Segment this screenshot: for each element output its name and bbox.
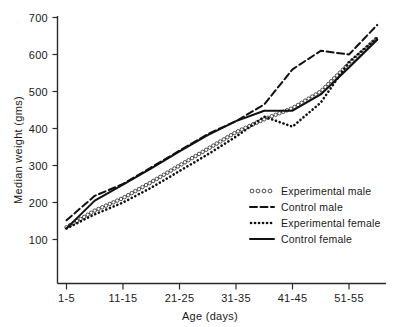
data-point	[278, 112, 282, 116]
data-point	[169, 169, 173, 173]
y-axis-title: Median weight (gms)	[12, 96, 24, 204]
y-tick-label-400: 400	[29, 123, 48, 135]
data-point	[240, 128, 244, 132]
data-point	[108, 202, 112, 206]
data-point	[229, 133, 233, 137]
data-point	[262, 118, 266, 122]
data-point	[115, 199, 119, 203]
data-point	[190, 156, 194, 160]
y-tick-marks	[53, 18, 58, 240]
y-tick-label-500: 500	[29, 86, 48, 98]
data-point	[89, 211, 93, 215]
x-tick-label-11-15: 11-15	[109, 292, 138, 304]
data-point	[97, 207, 101, 211]
data-point	[197, 152, 201, 156]
data-point	[130, 191, 134, 195]
x-tick-label-1-5: 1-5	[58, 292, 75, 304]
data-point	[270, 115, 274, 119]
data-point	[101, 206, 105, 210]
chart-legend: Experimental male Control male Experimen…	[250, 185, 381, 245]
line-chart: 700 600 500 400 300 200 100 Median weigh…	[0, 0, 393, 327]
data-point	[123, 195, 127, 199]
data-point	[159, 175, 163, 179]
legend-label-experimental-female: Experimental female	[281, 217, 381, 229]
data-point	[236, 130, 240, 134]
data-point	[82, 215, 86, 219]
y-tick-label-700: 700	[29, 12, 48, 24]
series-layer	[65, 25, 378, 229]
x-axis-title: Age (days)	[182, 310, 238, 322]
data-point	[119, 197, 123, 201]
legend-marker-experimental-male	[250, 189, 272, 193]
data-point	[204, 148, 208, 152]
series-experimental-female	[67, 38, 378, 229]
y-tick-label-300: 300	[29, 160, 48, 172]
data-point	[176, 165, 180, 169]
x-tick-label-21-25: 21-25	[165, 292, 195, 304]
data-point	[148, 181, 152, 185]
legend-label-control-male: Control male	[281, 201, 343, 213]
data-point	[93, 209, 97, 213]
data-point	[86, 213, 90, 217]
x-tick-marks	[67, 284, 350, 290]
data-point	[212, 144, 216, 148]
data-point	[208, 146, 212, 150]
data-point	[222, 138, 226, 142]
data-point	[173, 167, 177, 171]
data-point	[126, 193, 130, 197]
data-point	[187, 158, 191, 162]
legend-label-control-female: Control female	[281, 233, 352, 245]
y-tick-label-100: 100	[29, 234, 48, 246]
data-point	[233, 131, 237, 135]
x-tick-label-41-45: 41-45	[278, 292, 308, 304]
legend-label-experimental-male: Experimental male	[281, 185, 371, 197]
data-point	[180, 163, 184, 167]
data-point	[151, 179, 155, 183]
data-point	[155, 177, 159, 181]
data-point	[226, 136, 230, 140]
data-point	[219, 140, 223, 144]
data-point	[112, 201, 116, 205]
data-point	[201, 150, 205, 154]
data-point	[166, 171, 170, 175]
data-point	[144, 183, 148, 187]
data-point	[194, 154, 198, 158]
x-tick-label-51-55: 51-55	[334, 292, 364, 304]
y-tick-label-200: 200	[29, 197, 48, 209]
data-point	[162, 173, 166, 177]
chart-figure: 700 600 500 400 300 200 100 Median weigh…	[0, 0, 393, 327]
data-point	[134, 189, 138, 193]
data-point	[274, 113, 278, 117]
data-point	[104, 204, 108, 208]
data-point	[141, 185, 145, 189]
data-point	[215, 142, 219, 146]
data-point	[137, 187, 141, 191]
y-tick-label-600: 600	[29, 49, 48, 61]
data-point	[183, 161, 187, 165]
x-tick-label-31-35: 31-35	[221, 292, 251, 304]
